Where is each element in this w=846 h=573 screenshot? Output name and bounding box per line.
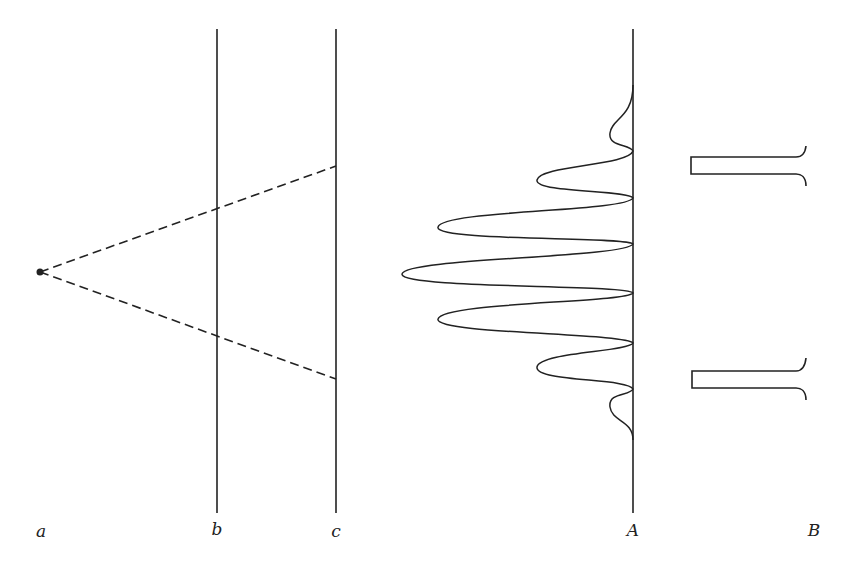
label-A: A [627, 522, 639, 539]
diagram-svg [0, 0, 846, 573]
label-a: a [36, 523, 46, 540]
source-point [37, 269, 44, 276]
ray-lower-dashed [40, 272, 336, 379]
ray-upper-dashed [40, 166, 336, 272]
diagram-canvas: a b c A B [0, 0, 846, 573]
slit-pattern-upper [691, 146, 806, 186]
label-b: b [212, 521, 223, 538]
slit-pattern-lower [692, 358, 806, 400]
interference-pattern-curve [402, 85, 633, 440]
label-c: c [331, 523, 341, 540]
label-B: B [808, 522, 821, 539]
